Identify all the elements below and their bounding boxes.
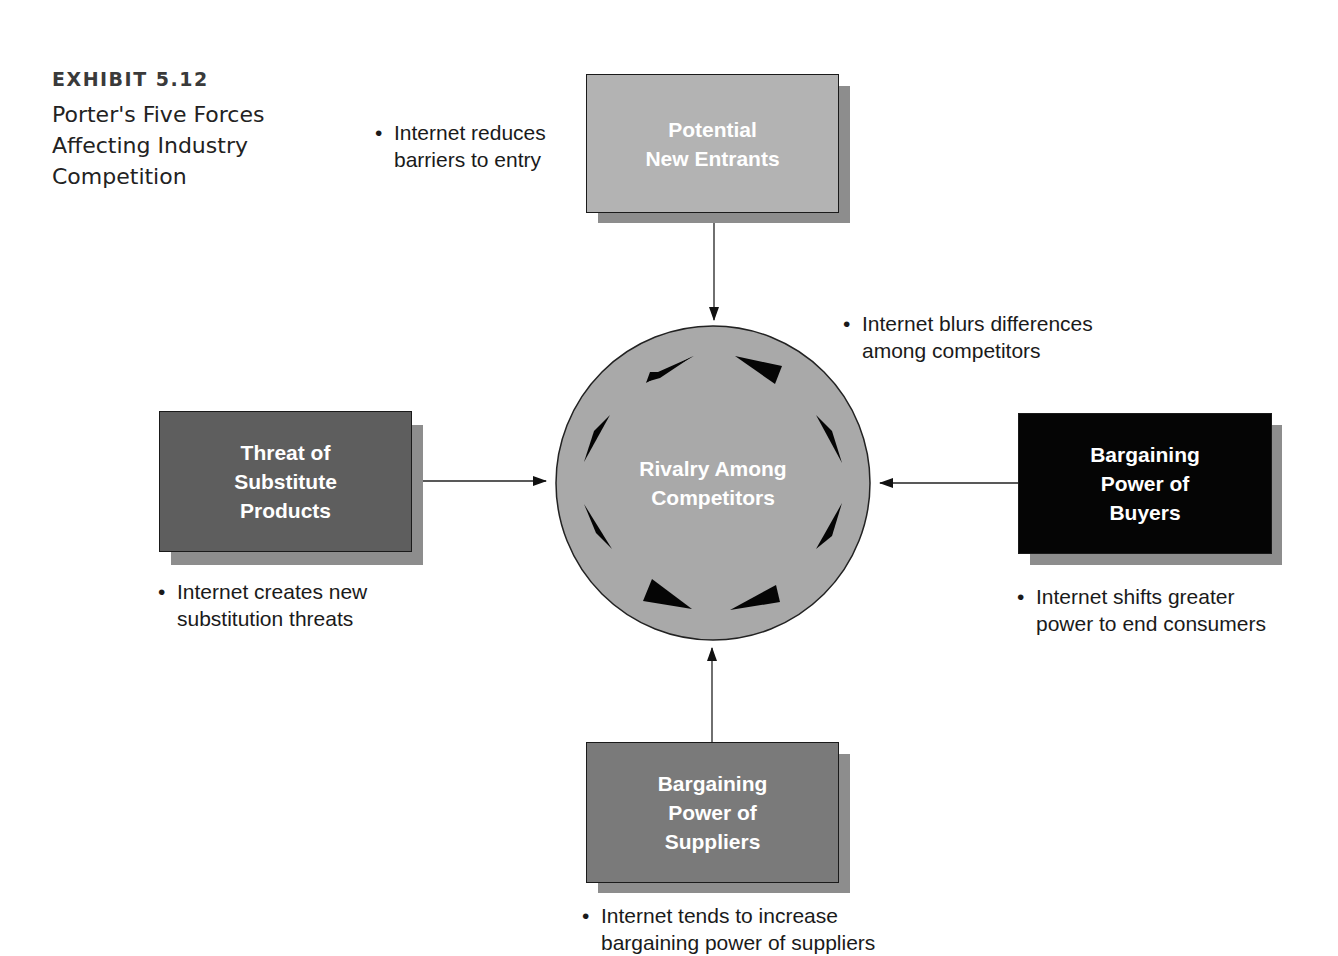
note-line: Internet reduces xyxy=(394,119,546,146)
note-line: among competitors xyxy=(862,337,1093,364)
force-note-substitutes: • Internet creates new substitution thre… xyxy=(177,578,367,632)
force-label: Threat of Substitute Products xyxy=(234,438,337,525)
note-line: Internet tends to increase xyxy=(601,902,875,929)
force-label: Potential New Entrants xyxy=(645,115,779,173)
note-line: Internet creates new xyxy=(177,578,367,605)
force-note-buyers: • Internet shifts greater power to end c… xyxy=(1036,583,1266,637)
note-line: bargaining power of suppliers xyxy=(601,929,875,956)
bullet: • xyxy=(375,119,382,146)
force-box-suppliers: Bargaining Power of Suppliers xyxy=(586,742,839,883)
force-note-suppliers: • Internet tends to increase bargaining … xyxy=(601,902,875,956)
note-line: Internet blurs differences xyxy=(862,310,1093,337)
force-box-substitutes: Threat of Substitute Products xyxy=(159,411,412,552)
force-label: Bargaining Power of Buyers xyxy=(1090,440,1200,527)
center-label: Rivalry Among Competitors xyxy=(573,454,853,512)
force-label: Bargaining Power of Suppliers xyxy=(658,769,768,856)
bullet: • xyxy=(158,578,165,605)
force-box-buyers: Bargaining Power of Buyers xyxy=(1018,413,1272,554)
bullet: • xyxy=(1017,583,1024,610)
center-note: • Internet blurs differences among compe… xyxy=(862,310,1093,364)
note-line: power to end consumers xyxy=(1036,610,1266,637)
force-note-new-entrants: • Internet reduces barriers to entry xyxy=(394,119,546,173)
force-box-new-entrants: Potential New Entrants xyxy=(586,74,839,213)
bullet: • xyxy=(582,902,589,929)
bullet: • xyxy=(843,310,850,337)
note-line: barriers to entry xyxy=(394,146,546,173)
note-line: substitution threats xyxy=(177,605,367,632)
note-line: Internet shifts greater xyxy=(1036,583,1266,610)
